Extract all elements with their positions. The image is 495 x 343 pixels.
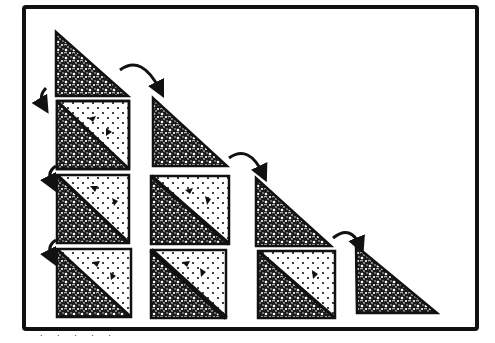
hst-square — [57, 175, 129, 243]
column-3 — [229, 154, 335, 318]
rotate-arrow-icon — [50, 166, 56, 184]
rotate-arrow-icon — [50, 240, 56, 258]
hst-square — [57, 249, 131, 317]
hst-square — [57, 101, 129, 169]
column-2 — [120, 65, 229, 318]
triangle-piece — [56, 32, 128, 96]
move-arrow-icon — [120, 65, 160, 90]
rotate-arrow-icon — [41, 88, 46, 106]
column-4 — [333, 233, 437, 313]
move-arrow-icon — [229, 154, 263, 174]
move-arrow-icon — [333, 233, 360, 246]
triangle-piece — [356, 246, 437, 313]
triangle-piece — [256, 178, 331, 246]
column-1 — [41, 32, 131, 317]
hst-square — [151, 176, 229, 244]
caption-fragment: · · · · · — [40, 332, 117, 341]
hst-square — [151, 250, 226, 318]
triangle-piece — [153, 98, 227, 166]
hst-square — [258, 251, 335, 318]
quilt-diagram — [0, 0, 495, 343]
